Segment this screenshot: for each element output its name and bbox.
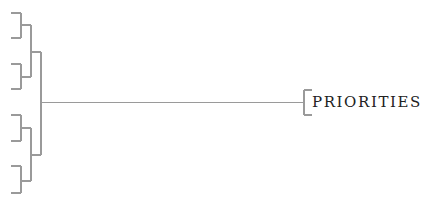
leaf-bracket-4: [11, 166, 31, 193]
root-node-label: PRIORITIES: [312, 93, 422, 111]
branch-connector-lower: [31, 128, 41, 181]
leaf-bracket-3: [11, 115, 31, 141]
branch-connector-upper: [31, 25, 41, 77]
leaf-bracket-2: [11, 64, 31, 89]
root-bracket: [304, 90, 312, 115]
leaf-bracket-1: [11, 13, 31, 38]
